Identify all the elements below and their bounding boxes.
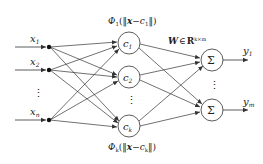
input-node-1 [47,45,51,49]
input-ellipsis: ⋮ [33,87,44,100]
rbf-network-diagram: x1 x2 xn ⋮ c1 c2 ck ⋮ Σ Σ ⋮ y1 ym Φ1(‖x−… [0,0,263,164]
output-ellipsis: ⋮ [209,79,220,92]
input-label-2: x2 [30,56,40,68]
output-label-m: ym [242,96,255,108]
input-hidden-connections [50,42,119,127]
output-node-m: Σ [201,99,223,121]
hidden-node-1: c1 [118,32,140,54]
output-node-1: Σ [201,49,223,71]
hidden-ellipsis: ⋮ [126,94,137,107]
hidden-output-connections [139,44,203,126]
hidden-node-k: ck [118,115,140,137]
input-nodes [47,45,51,122]
input-node-2 [47,68,51,72]
weight-matrix-label: W∈Rk×m [168,36,206,46]
sum-icon: Σ [207,104,215,117]
phi-label-bottom: Φk(‖x−ck‖) [108,142,156,153]
input-label-n: xn [30,106,40,118]
input-label-1: x1 [30,33,39,45]
sum-icon: Σ [207,54,215,67]
hidden-node-2: c2 [118,66,140,88]
output-label-1: y1 [242,45,252,57]
input-node-n [47,118,51,122]
phi-label-top: Φ1(‖x−c1‖) [108,16,156,27]
